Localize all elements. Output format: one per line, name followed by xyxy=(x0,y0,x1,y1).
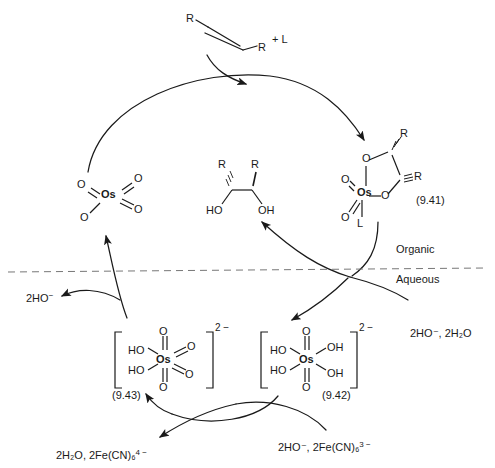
s942-bracket-right xyxy=(350,332,357,388)
s942-oh-upper-right: OH xyxy=(327,341,344,353)
oso4-bond-ul-b xyxy=(88,192,97,198)
diol-ho-left: HO xyxy=(206,204,223,216)
reaction-scheme xyxy=(0,0,495,468)
ester-r-right: R xyxy=(414,170,422,182)
arrow-oso4-to-ester xyxy=(88,75,364,172)
oso4-bond-ll xyxy=(90,203,100,213)
s943-bracket-right xyxy=(206,332,213,388)
oxidant-in-charge: 3 − xyxy=(359,440,370,449)
s942-oxo-top: O xyxy=(302,325,311,337)
ester-oxo-left-a xyxy=(350,181,355,186)
alkene-r-right-bond xyxy=(243,46,257,50)
s942-oh-lr xyxy=(316,364,326,370)
s942-center: Os xyxy=(299,353,314,365)
s943-label: (9.43) xyxy=(112,389,141,401)
ester-r-top: R xyxy=(400,127,408,139)
s942-label: (9.42) xyxy=(322,389,351,401)
s942-ho-lower-left: HO xyxy=(270,364,287,376)
s943-oxo-bottom: O xyxy=(159,381,168,393)
s943-oxo-top: O xyxy=(159,325,168,337)
hydroxide-out-charge: − xyxy=(49,291,54,300)
s942-oxo-bottom: O xyxy=(302,381,311,393)
ester-ring-o-right: O xyxy=(381,189,390,201)
s943-ho-lower-left: HO xyxy=(128,364,145,376)
ester-ring-o-top: O xyxy=(362,152,371,164)
s942-oh-lower-right: OH xyxy=(327,367,344,379)
right-entry-label: 2HO⁻, 2H₂O xyxy=(410,327,472,340)
oxidant-in-label: 2HO⁻, 2Fe(CN)₆3 − xyxy=(278,440,371,454)
alkene-r-left: R xyxy=(186,12,194,24)
byproduct-out-text: 2H₂O, 2Fe(CN)₆ xyxy=(56,449,136,461)
diol-oh-right: OH xyxy=(258,204,275,216)
oso4-o-lower-right: O xyxy=(134,203,143,215)
phase-boundary-line xyxy=(8,268,487,272)
substrate-entry-arrow xyxy=(207,55,246,84)
s943-o-ur-a xyxy=(174,347,186,353)
s943-center: Os xyxy=(156,353,171,365)
s943-o-upper-right: O xyxy=(187,340,196,352)
diol-c1-oh xyxy=(222,190,232,204)
diol-r-right: R xyxy=(251,158,259,170)
ligand-addition-label: + L xyxy=(272,33,288,45)
s943-ho-upper-left: HO xyxy=(128,344,145,356)
ester-oxo-left-b xyxy=(349,186,354,191)
phase-aqueous-label: Aqueous xyxy=(396,273,439,285)
hydroxide-out-text: 2HO xyxy=(26,292,49,304)
phase-organic-label: Organic xyxy=(396,243,435,255)
line-ester-to-interface xyxy=(352,222,378,276)
ester-ligand-label: L xyxy=(357,217,363,229)
s942-charge: 2 − xyxy=(359,322,373,333)
oso4-bond-lr-a xyxy=(122,199,134,205)
byproduct-out-charge: 4 − xyxy=(136,448,147,457)
osmate-ester-label: (9.41) xyxy=(416,194,445,206)
oso4-center: Os xyxy=(101,188,116,200)
alkene-r-right: R xyxy=(258,41,266,53)
diol-c2-oh xyxy=(252,190,262,204)
alkene-bond-lower xyxy=(205,33,243,50)
s943-o-lower-right: O xyxy=(185,368,194,380)
ester-ring-o-c1 xyxy=(369,152,388,160)
s943-o-lr-b xyxy=(172,368,184,374)
byproduct-out-label: 2H₂O, 2Fe(CN)₆4 − xyxy=(56,448,147,461)
ester-center: Os xyxy=(357,186,372,198)
alkene-r-left-bond xyxy=(196,20,208,27)
s942-oh-ur xyxy=(316,348,326,354)
s942-ho-upper-left: HO xyxy=(270,344,287,356)
ester-oxo-lower-left: O xyxy=(341,211,350,223)
arrow-interface-to-942 xyxy=(292,278,348,320)
oso4-bond-lr-b xyxy=(120,203,132,209)
oso4-o-lower-left: O xyxy=(80,211,89,223)
arrow-hydroxide-out xyxy=(62,290,120,300)
diol-r-left: R xyxy=(218,158,226,170)
line-oxidant-in xyxy=(236,402,326,430)
line-942-bottom xyxy=(172,396,278,421)
ester-oxo-left: O xyxy=(341,173,350,185)
s943-charge: 2 − xyxy=(215,322,229,333)
oxidant-in-text: 2HO⁻, 2Fe(CN)₆ xyxy=(278,441,359,453)
arrow-943-to-oso4 xyxy=(106,236,127,318)
s943-bracket-left xyxy=(115,332,122,388)
arrow-to-diol xyxy=(262,222,350,277)
s942-bracket-left xyxy=(261,332,268,388)
arrow-942-to-943 xyxy=(146,394,172,414)
oso4-o-upper-left: O xyxy=(77,178,86,190)
ester-ring-c1-c2 xyxy=(392,155,400,175)
oso4-o-upper-right: O xyxy=(134,172,143,184)
oso4-bond-ul-a xyxy=(91,188,100,194)
hydroxide-out-label: 2HO− xyxy=(26,291,53,304)
